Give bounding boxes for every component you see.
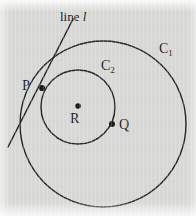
point-r-dot xyxy=(75,103,81,109)
label-point-r: R xyxy=(70,112,79,126)
label-circle-c2: C2 xyxy=(101,59,115,73)
label-line-l: line l xyxy=(60,10,86,23)
label-line-l-prefix: line xyxy=(60,9,83,24)
label-point-p: P xyxy=(22,79,30,93)
label-circle-c1: C1 xyxy=(159,42,173,56)
figure-canvas xyxy=(0,0,196,216)
label-point-q: Q xyxy=(119,118,129,132)
label-c2-subscript: 2 xyxy=(110,65,115,75)
geometry-figure: line l C1 C2 P Q R xyxy=(0,0,196,216)
point-q-dot xyxy=(109,121,115,127)
label-c1-subscript: 1 xyxy=(168,48,173,58)
label-c1-base: C xyxy=(159,41,168,56)
label-c2-base: C xyxy=(101,58,110,73)
tangent-line-l xyxy=(8,19,73,147)
point-p-dot xyxy=(39,85,45,91)
label-line-l-symbol: l xyxy=(83,9,87,24)
